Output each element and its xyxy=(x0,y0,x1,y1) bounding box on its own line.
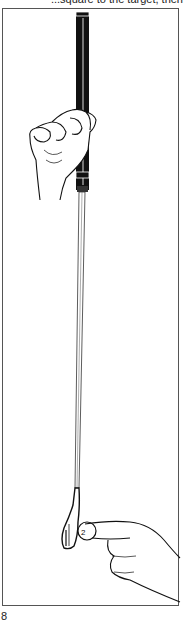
golf-illustration: 2 xyxy=(0,0,183,621)
svg-text:2: 2 xyxy=(81,528,86,537)
club-head xyxy=(62,488,79,549)
coin: 2 xyxy=(78,522,96,540)
pointing-hand xyxy=(85,521,180,602)
figure-number: 8 xyxy=(1,610,7,621)
club-shaft xyxy=(75,192,85,488)
